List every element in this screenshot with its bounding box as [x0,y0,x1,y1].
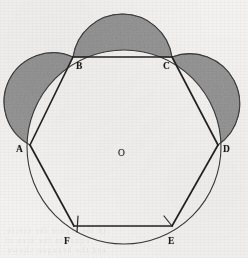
vertex-label-e: E [168,237,175,247]
lune-on-CD [172,54,240,145]
ghost-text-line-3: and the hexagon shown [6,246,107,255]
ghost-text-line-2: equal to the area of [4,236,89,245]
center-label-o: O [118,149,125,159]
geometry-figure: A B C D E F O in the figure the circle e… [0,0,248,258]
tick-at-e [164,216,172,226]
vertex-label-b: B [76,62,83,72]
hexagon-edge-fa [30,145,74,226]
ghost-text-line-1: in the figure the circle [6,226,105,235]
vertex-label-c: C [163,62,170,72]
vertex-label-a: A [16,145,23,155]
figure-canvas [0,0,248,258]
vertex-label-d: D [223,145,230,155]
lune-on-AB [4,53,73,145]
